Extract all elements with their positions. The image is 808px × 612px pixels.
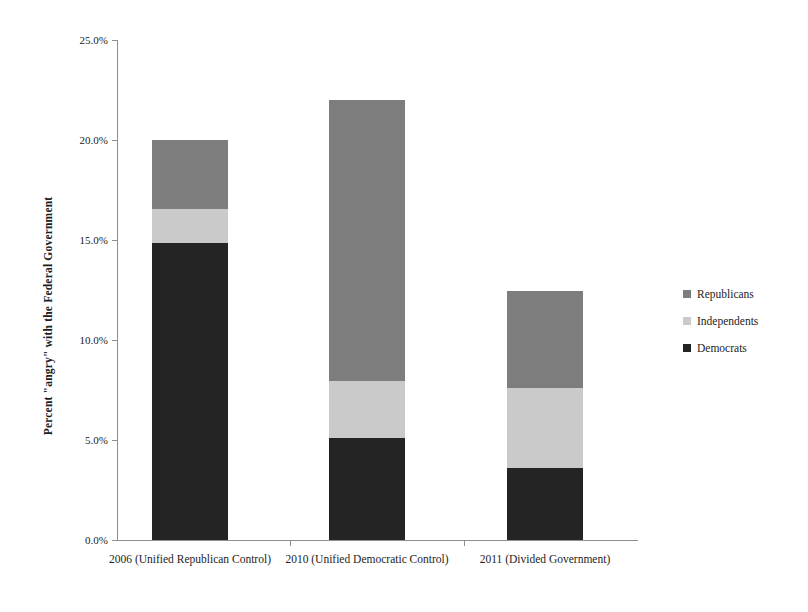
bar-segment-democrats[interactable] (329, 438, 405, 540)
y-tick-mark (112, 540, 118, 541)
legend: RepublicansIndependentsDemocrats (683, 280, 808, 361)
y-tick-mark (112, 240, 118, 241)
bar-segment-republicans[interactable] (507, 291, 583, 388)
y-tick-mark (112, 40, 118, 41)
y-tick-mark (112, 140, 118, 141)
legend-item-republicans[interactable]: Republicans (683, 280, 808, 307)
y-axis-title: Percent "angry" with the Federal Governm… (42, 146, 54, 486)
y-axis-line (117, 40, 118, 541)
legend-swatch-icon (683, 344, 691, 352)
legend-label: Independents (697, 315, 758, 327)
legend-swatch-icon (683, 290, 691, 298)
legend-swatch-icon (683, 317, 691, 325)
bar-1[interactable] (152, 140, 228, 540)
bar-segment-republicans[interactable] (152, 140, 228, 209)
y-tick-label: 15.0% (80, 234, 108, 246)
stacked-bar-chart: Percent "angry" with the Federal Governm… (0, 0, 808, 612)
bar-2[interactable] (329, 100, 405, 540)
x-axis-label-3: 2011 (Divided Government) (440, 552, 650, 567)
bar-segment-independents[interactable] (329, 381, 405, 438)
y-tick-label: 10.0% (80, 334, 108, 346)
y-tick-label: 20.0% (80, 134, 108, 146)
y-tick-label: 25.0% (80, 34, 108, 46)
bar-segment-independents[interactable] (507, 388, 583, 468)
legend-label: Democrats (697, 342, 747, 354)
bar-segment-independents[interactable] (152, 209, 228, 243)
legend-item-independents[interactable]: Independents (683, 307, 808, 334)
y-tick-label: 0.0% (85, 534, 108, 546)
x-tick-mark (290, 540, 291, 546)
legend-item-democrats[interactable]: Democrats (683, 334, 808, 361)
x-tick-mark (464, 540, 465, 546)
legend-label: Republicans (697, 288, 754, 300)
y-tick-label: 5.0% (85, 434, 108, 446)
plot-area: 0.0%5.0%10.0%15.0%20.0%25.0% 2006 (Unifi… (117, 40, 637, 540)
bar-segment-democrats[interactable] (152, 243, 228, 540)
y-tick-mark (112, 340, 118, 341)
bar-segment-democrats[interactable] (507, 468, 583, 540)
y-tick-mark (112, 440, 118, 441)
bar-segment-republicans[interactable] (329, 100, 405, 381)
x-axis-line (117, 540, 638, 541)
bar-3[interactable] (507, 291, 583, 540)
